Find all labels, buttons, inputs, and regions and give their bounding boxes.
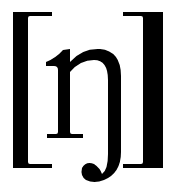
ipa-symbol-graphic: [ŋ] (0, 0, 170, 192)
eng-character (46, 49, 121, 182)
open-bracket (13, 12, 52, 168)
close-bracket (123, 12, 163, 168)
ipa-symbol: [ŋ] (0, 0, 170, 192)
